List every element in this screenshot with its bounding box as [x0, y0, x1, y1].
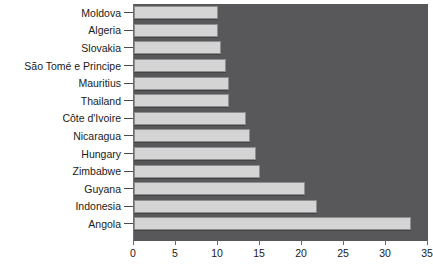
x-tick-mark	[343, 240, 344, 245]
category-label-row: Mauritius	[0, 74, 133, 92]
x-tick-mark	[301, 240, 302, 245]
bar	[134, 147, 256, 160]
x-tick-label: 25	[337, 247, 349, 259]
category-label: Guyana	[84, 183, 124, 195]
category-label: Côte d'Ivoire	[62, 112, 124, 124]
category-tick-mark	[124, 30, 133, 31]
x-tick-label: 0	[130, 247, 136, 259]
x-tick-mark	[427, 240, 428, 245]
x-axis-line	[133, 240, 427, 241]
bar-row	[134, 110, 428, 128]
bar-row	[134, 162, 428, 180]
category-label: Zimbabwe	[73, 165, 124, 177]
bar	[134, 77, 229, 90]
bar-row	[134, 215, 428, 233]
bar-row	[134, 145, 428, 163]
category-label-row: Hungary	[0, 145, 133, 163]
bar-row	[134, 180, 428, 198]
category-tick-mark	[124, 118, 133, 119]
category-label-row: Algeria	[0, 22, 133, 40]
category-label-row: Angola	[0, 215, 133, 233]
bar	[134, 41, 221, 54]
category-label: Slovakia	[81, 42, 124, 54]
bar	[134, 6, 218, 19]
category-label: Angola	[88, 218, 124, 230]
bar	[134, 165, 260, 178]
x-tick-mark	[385, 240, 386, 245]
category-label: Moldova	[81, 7, 124, 19]
category-label-row: Slovakia	[0, 39, 133, 57]
category-label-row: São Tomé e Principe	[0, 57, 133, 75]
bar-row	[134, 4, 428, 22]
category-tick-mark	[124, 47, 133, 48]
category-label: Algeria	[88, 24, 124, 36]
category-tick-mark	[124, 65, 133, 66]
bar-row	[134, 198, 428, 216]
plot-area	[133, 4, 428, 240]
x-tick-label: 20	[295, 247, 307, 259]
bar	[134, 59, 226, 72]
category-label-row: Zimbabwe	[0, 162, 133, 180]
x-tick-label: 35	[421, 247, 433, 259]
category-label: Mauritius	[78, 77, 124, 89]
category-label-row: Thailand	[0, 92, 133, 110]
x-tick-mark	[217, 240, 218, 245]
category-tick-mark	[124, 223, 133, 224]
bar	[134, 200, 317, 213]
category-tick-mark	[124, 83, 133, 84]
category-axis-labels: MoldovaAlgeriaSlovakiaSão Tomé e Princip…	[0, 4, 133, 240]
category-label-row: Côte d'Ivoire	[0, 110, 133, 128]
category-tick-mark	[124, 171, 133, 172]
bar-row	[134, 57, 428, 75]
category-label: Thailand	[81, 95, 124, 107]
category-label-row: Guyana	[0, 180, 133, 198]
bar	[134, 129, 250, 142]
bar	[134, 94, 229, 107]
category-label: Indonesia	[75, 200, 124, 212]
bar	[134, 24, 218, 37]
x-tick-mark	[259, 240, 260, 245]
bar	[134, 112, 246, 125]
category-label: Nicaragua	[73, 130, 124, 142]
bar-row	[134, 39, 428, 57]
bar	[134, 182, 305, 195]
bar-row	[134, 22, 428, 40]
x-tick-label: 10	[211, 247, 223, 259]
category-label: São Tomé e Principe	[24, 60, 124, 72]
x-tick-label: 5	[172, 247, 178, 259]
x-tick-mark	[175, 240, 176, 245]
category-tick-mark	[124, 188, 133, 189]
category-tick-mark	[124, 153, 133, 154]
bar-row	[134, 74, 428, 92]
x-tick-label: 30	[379, 247, 391, 259]
x-tick-mark	[133, 240, 134, 245]
category-tick-mark	[124, 12, 133, 13]
category-label-row: Nicaragua	[0, 127, 133, 145]
category-tick-mark	[124, 100, 133, 101]
x-tick-label: 15	[253, 247, 265, 259]
bar-row	[134, 92, 428, 110]
bar-row	[134, 127, 428, 145]
category-label-row: Indonesia	[0, 198, 133, 216]
category-tick-mark	[124, 206, 133, 207]
category-label: Hungary	[81, 148, 124, 160]
bar	[134, 217, 411, 230]
category-label-row: Moldova	[0, 4, 133, 22]
category-tick-mark	[124, 135, 133, 136]
